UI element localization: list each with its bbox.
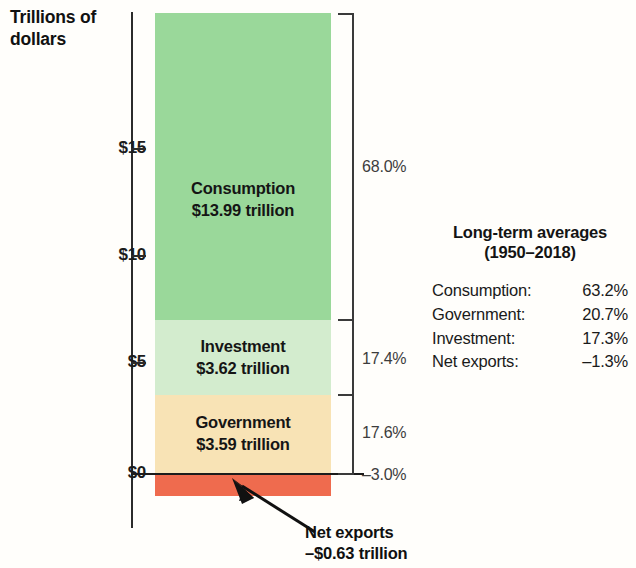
long-term-row-investment-value: 17.3% <box>570 327 628 351</box>
long-term-row-investment: Investment: 17.3% <box>432 327 628 351</box>
bar-label-government-amount: $3.59 trillion <box>155 434 331 456</box>
bar-label-consumption: Consumption $13.99 trillion <box>155 178 331 222</box>
long-term-row-government-label: Government: <box>432 303 525 327</box>
y-axis-title-line1: Trillions of <box>10 6 130 28</box>
net-exports-callout-line2: –$0.63 trillion <box>305 543 407 564</box>
bar-label-government: Government $3.59 trillion <box>155 412 331 456</box>
bar-label-investment: Investment $3.62 trillion <box>155 336 331 380</box>
long-term-row-government: Government: 20.7% <box>432 303 628 327</box>
long-term-row-net-exports-label: Net exports: <box>432 350 519 374</box>
y-axis-title-line2: dollars <box>10 28 130 50</box>
net-exports-callout-text: Net exports –$0.63 trillion <box>305 522 407 565</box>
y-tick-mark-10 <box>131 255 146 257</box>
bar-label-investment-amount: $3.62 trillion <box>155 358 331 380</box>
bracket-government-bottom-arm <box>338 473 354 475</box>
gdp-components-chart: Trillions of dollars $15 $10 $5 $0 Consu… <box>0 0 636 568</box>
long-term-row-net-exports-value: –1.3% <box>570 350 628 374</box>
long-term-row-investment-label: Investment: <box>432 327 515 351</box>
long-term-row-consumption: Consumption: 63.2% <box>432 279 628 303</box>
net-exports-callout-line1: Net exports <box>305 522 407 543</box>
long-term-row-net-exports: Net exports: –1.3% <box>432 350 628 374</box>
bracket-investment <box>352 320 354 395</box>
percent-label-consumption: 68.0% <box>362 158 406 176</box>
bar-label-investment-name: Investment <box>155 336 331 358</box>
bracket-consumption-top-arm <box>338 13 354 15</box>
y-tick-mark-5 <box>131 362 146 364</box>
long-term-row-consumption-value: 63.2% <box>570 279 628 303</box>
percent-label-investment: 17.4% <box>362 350 406 368</box>
long-term-row-government-value: 20.7% <box>570 303 628 327</box>
bar-label-consumption-amount: $13.99 trillion <box>155 200 331 222</box>
bar-segment-consumption <box>155 13 331 320</box>
long-term-averages-title: Long-term averages <box>432 222 628 242</box>
bar-label-consumption-name: Consumption <box>155 178 331 200</box>
y-axis-line <box>131 12 133 528</box>
bar-label-government-name: Government <box>155 412 331 434</box>
long-term-averages-panel: Long-term averages (1950–2018) Consumpti… <box>432 222 628 374</box>
long-term-averages-rows: Consumption: 63.2% Government: 20.7% Inv… <box>432 279 628 374</box>
bracket-government <box>352 395 354 475</box>
percent-label-government: 17.6% <box>362 424 406 442</box>
percent-label-net-exports: –3.0% <box>362 466 406 484</box>
long-term-row-consumption-label: Consumption: <box>432 279 531 303</box>
y-axis-title: Trillions of dollars <box>10 6 130 51</box>
bracket-consumption <box>352 13 354 320</box>
y-tick-mark-15 <box>131 148 146 150</box>
long-term-averages-subtitle: (1950–2018) <box>432 243 628 262</box>
